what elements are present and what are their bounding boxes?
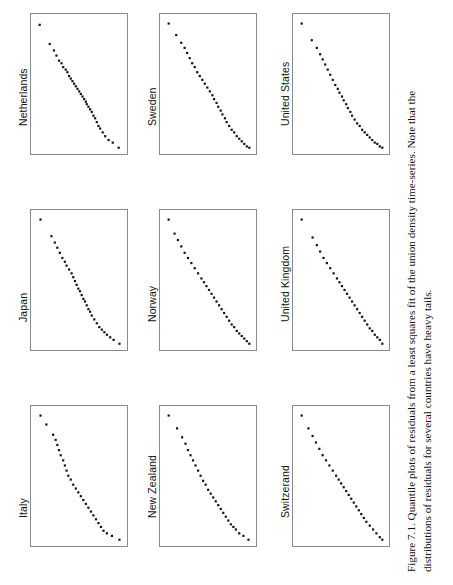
data-point [91,314,93,316]
data-point [202,480,204,482]
data-point [375,532,377,534]
data-point [301,218,303,220]
data-point [53,49,55,51]
data-point [82,298,84,300]
data-point [311,39,313,41]
data-point [228,125,230,127]
panel-label-united-states: United States [280,62,291,126]
data-point [248,343,250,345]
data-point [197,272,199,274]
data-point [52,434,54,436]
data-point [345,103,347,105]
data-point [343,486,345,488]
caption-line-2: distributions of residuals for several c… [420,12,436,572]
data-point [80,93,82,95]
data-point [369,327,371,329]
data-point [324,63,326,65]
data-point [319,250,321,252]
data-point [224,117,226,119]
data-point [86,103,88,105]
data-point [322,58,324,60]
data-point [191,62,193,64]
qq-scatter [160,406,258,548]
data-point [113,339,115,341]
data-point [168,218,170,220]
panel-label-united-kingdom: United Kingdom [280,246,291,322]
data-point [77,491,79,493]
data-point [59,252,61,254]
data-point [72,276,74,278]
data-point [180,42,182,44]
data-point [225,516,227,518]
data-point [99,127,101,129]
data-point [190,262,192,264]
data-point [364,320,366,322]
data-point [215,102,217,104]
data-point [232,526,234,528]
data-point [50,235,52,237]
data-point [82,499,84,501]
data-point [338,281,340,283]
data-point [93,318,95,320]
data-point [374,334,376,336]
data-point [39,218,41,220]
data-point [107,139,109,141]
data-point [354,118,356,120]
data-point [175,34,177,36]
data-point [180,245,182,247]
data-point [233,326,235,328]
qq-panel-switzerand [292,405,390,547]
data-point [236,330,238,332]
data-point [316,47,318,49]
data-point [210,293,212,295]
data-point [184,443,186,445]
data-point [56,247,58,249]
data-point [83,98,85,100]
data-point [319,53,321,55]
data-point [366,323,368,325]
data-point [316,244,318,246]
data-point [371,330,373,332]
qq-panel-united-kingdom [292,209,390,351]
data-point [89,108,91,110]
data-point [87,106,89,108]
data-point [238,138,240,140]
data-point [241,140,243,142]
data-point [227,519,229,521]
data-point [243,143,245,145]
data-point [213,98,215,100]
data-point [70,478,72,480]
data-point [210,493,212,495]
data-point [348,494,350,496]
data-point [335,475,337,477]
data-point [381,147,383,149]
data-point [226,316,228,318]
data-point [349,111,351,113]
data-point [211,94,213,96]
data-point [315,441,317,443]
qq-scatter [293,14,391,156]
data-point [200,277,202,279]
data-point [213,297,215,299]
data-point [60,62,62,64]
panel-label-norway: Norway [147,286,158,322]
qq-panel-norway [159,209,257,351]
qq-panel-japan [30,209,128,351]
data-point [231,323,233,325]
data-point [62,459,64,461]
data-point [106,334,108,336]
data-point [76,88,78,90]
data-point [379,145,381,147]
qq-panel-new-zealand [159,405,257,547]
data-point [376,143,378,145]
data-point [355,505,357,507]
data-point [345,490,347,492]
data-point [221,308,223,310]
data-point [168,22,170,24]
data-point [84,300,86,302]
data-point [230,523,232,525]
data-point [222,512,224,514]
data-point [72,484,74,486]
data-point [238,332,240,334]
data-point [381,343,383,345]
